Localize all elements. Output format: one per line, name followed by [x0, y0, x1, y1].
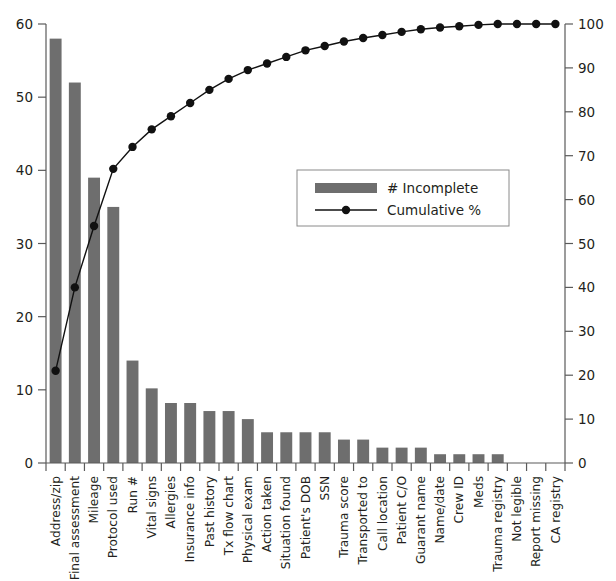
x-axis-label: Allergies: [164, 476, 178, 528]
x-axis-label: Run #: [126, 476, 140, 513]
x-axis: [46, 463, 565, 471]
x-axis-label: Action taken: [260, 476, 274, 552]
y-axis-left-tick-label: 20: [16, 309, 33, 325]
bar: [261, 432, 273, 463]
bar-series: [50, 39, 504, 463]
x-axis-label: Report missing: [529, 476, 543, 567]
cumulative-point: [397, 28, 405, 36]
cumulative-point: [128, 143, 136, 151]
x-axis-label: Trauma score: [337, 476, 351, 559]
x-axis-label: CA registry: [549, 476, 563, 543]
cumulative-point: [301, 46, 309, 54]
cumulative-point: [51, 367, 59, 375]
cumulative-point: [551, 20, 559, 28]
cumulative-point: [417, 25, 425, 33]
legend-marker-cumulative: [342, 206, 350, 214]
bar: [88, 178, 100, 463]
bar: [300, 432, 312, 463]
y-axis-left-tick-label: 60: [16, 16, 33, 32]
x-axis-label: Final assessment: [68, 476, 82, 580]
bar: [127, 361, 139, 463]
cumulative-point: [109, 165, 117, 173]
cumulative-point: [244, 66, 252, 74]
bar: [223, 411, 235, 463]
y-axis-right-tick-label: 10: [578, 411, 595, 427]
y-axis-right-tick-label: 60: [578, 192, 595, 208]
x-axis-label: Vital signs: [145, 476, 159, 539]
x-axis-label: Trauma registry: [491, 476, 505, 573]
cumulative-point: [494, 20, 502, 28]
x-axis-label: Patient's DOB: [299, 476, 313, 559]
x-axis-label: Protocol used: [106, 476, 120, 558]
y-axis-right-tick-label: 20: [578, 367, 595, 383]
bar: [50, 39, 62, 463]
legend-label-cumulative: Cumulative %: [387, 202, 481, 218]
bar: [146, 388, 158, 463]
x-axis-label: Mileage: [87, 476, 101, 524]
x-axis-label: Crew ID: [452, 476, 466, 524]
cumulative-point: [224, 75, 232, 83]
y-axis-right-tick-label: 50: [578, 236, 595, 252]
bar: [107, 207, 119, 463]
bar: [165, 403, 177, 463]
cumulative-point: [263, 59, 271, 67]
cumulative-point: [474, 21, 482, 29]
legend-label-incomplete: # Incomplete: [387, 180, 478, 196]
y-axis-right: 0102030405060708090100: [565, 16, 604, 471]
cumulative-point: [167, 112, 175, 120]
cumulative-point: [513, 20, 521, 28]
x-axis-label: Call location: [376, 476, 390, 551]
x-axis-labels: Address/zipFinal assessmentMileageProtoc…: [49, 476, 563, 580]
bar: [453, 454, 465, 463]
bar: [473, 454, 485, 463]
y-axis-left-tick-label: 0: [24, 455, 33, 471]
x-axis-label: Not legible: [510, 476, 524, 542]
cumulative-point: [378, 31, 386, 39]
y-axis-right-tick-label: 90: [578, 60, 595, 76]
cumulative-point: [186, 99, 194, 107]
x-axis-label: Address/zip: [49, 476, 63, 546]
y-axis-right-tick-label: 0: [578, 455, 587, 471]
y-axis-left-tick-label: 40: [16, 162, 33, 178]
bar: [319, 432, 331, 463]
cumulative-point: [282, 53, 290, 61]
bar: [376, 448, 388, 463]
cumulative-point: [436, 23, 444, 31]
x-axis-label: Physical exam: [241, 476, 255, 563]
legend-swatch-incomplete: [315, 183, 377, 193]
x-axis-label: Patient C/O: [395, 476, 409, 545]
cumulative-point: [321, 42, 329, 50]
x-axis-label: Insurance info: [183, 476, 197, 563]
y-axis-left-tick-label: 50: [16, 89, 33, 105]
x-axis-label: Meds: [472, 476, 486, 508]
y-axis-left: 0102030405060: [16, 16, 46, 471]
cumulative-point: [340, 37, 348, 45]
x-axis-label: Transported to: [356, 476, 370, 566]
cumulative-point: [455, 22, 463, 30]
bar: [492, 454, 504, 463]
chart-canvas: 01020304050600102030405060708090100Addre…: [0, 0, 616, 581]
cumulative-point: [148, 125, 156, 133]
bar: [203, 411, 215, 463]
cumulative-point: [359, 34, 367, 42]
y-axis-right-tick-label: 80: [578, 104, 595, 120]
x-axis-label: Past history: [203, 476, 217, 547]
x-axis-label: SSN: [318, 476, 332, 501]
bar: [184, 403, 196, 463]
y-axis-left-tick-label: 30: [16, 236, 33, 252]
y-axis-right-tick-label: 100: [578, 16, 604, 32]
cumulative-point: [71, 283, 79, 291]
bar: [415, 448, 427, 463]
y-axis-right-tick-label: 70: [578, 148, 595, 164]
cumulative-point: [205, 86, 213, 94]
bar: [434, 454, 446, 463]
x-axis-label: Situation found: [279, 476, 293, 569]
x-axis-label: Guarant name: [414, 476, 428, 564]
x-axis-label: Tx flow chart: [222, 476, 236, 556]
y-axis-right-tick-label: 40: [578, 279, 595, 295]
bar: [242, 419, 254, 463]
y-axis-right-tick-label: 30: [578, 323, 595, 339]
x-axis-label: Name/date: [433, 476, 447, 544]
bar: [357, 440, 369, 463]
cumulative-point: [90, 222, 98, 230]
